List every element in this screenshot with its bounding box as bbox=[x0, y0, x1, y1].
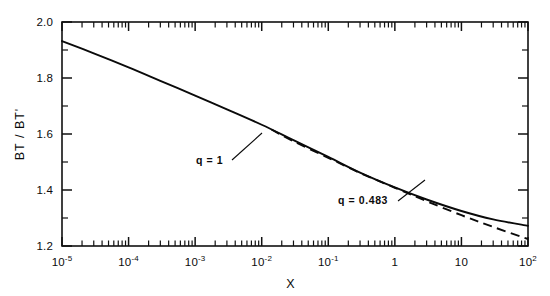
chart-svg: 10-510-410-310-210-1110102 2.01.81.61.41… bbox=[0, 0, 550, 296]
y-tick-label: 2.0 bbox=[36, 16, 53, 28]
x-axis-title: X bbox=[286, 277, 295, 291]
y-tick-label: 1.8 bbox=[36, 72, 53, 84]
chart-figure: 10-510-410-310-210-1110102 2.01.81.61.41… bbox=[0, 0, 550, 296]
x-tick-label: 10 bbox=[455, 256, 468, 268]
y-tick-label: 1.2 bbox=[36, 240, 53, 252]
y-tick-label: 1.6 bbox=[36, 128, 53, 140]
y-axis-title: BT / BT' bbox=[13, 108, 27, 161]
annotation-label-1: q = 0.483 bbox=[338, 194, 388, 206]
annotation-label-0: q = 1 bbox=[196, 154, 223, 166]
chart-background bbox=[0, 0, 550, 296]
x-tick-label: 1 bbox=[392, 256, 399, 268]
y-tick-label: 1.4 bbox=[36, 184, 53, 196]
